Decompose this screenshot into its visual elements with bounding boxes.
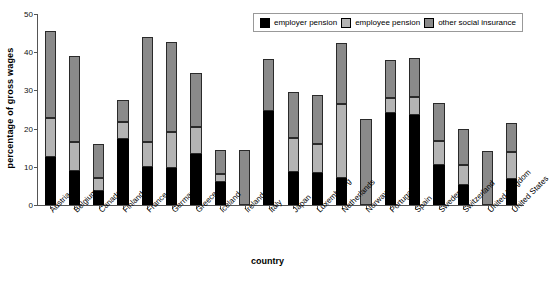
bar-spain [409,14,420,205]
bar-segment-other-social-insurance [458,129,469,165]
bar-segment-other-social-insurance [336,43,347,104]
bar-segment-employer-pension [433,165,444,205]
y-axis-tick-label: 30 [3,86,38,95]
bar-segment-employee-pension [458,165,469,185]
bar-segment-other-social-insurance [69,56,80,143]
y-axis-label: percentage of gross wages [2,0,18,215]
y-axis-tick-label: 40 [3,48,38,57]
bar-luxembourg [312,14,323,205]
bar-segment-employee-pension [433,141,444,165]
bar-segment-employee-pension [45,118,56,157]
y-axis-tick-label: 10 [3,162,38,171]
bar-segment-other-social-insurance [117,100,128,122]
y-axis-tick-mark [34,205,38,206]
bar-portugal [385,14,396,205]
bar-segment-employer-pension [263,111,274,205]
bar-canada [93,14,104,205]
bar-ireland [239,14,250,205]
y-axis-tick-mark [34,52,38,53]
bar-segment-employer-pension [166,168,177,205]
y-axis-tick-mark [34,167,38,168]
y-axis-tick-label: 0 [3,201,38,210]
y-axis-tick-mark [34,90,38,91]
bar-segment-other-social-insurance [190,73,201,127]
y-axis-tick-mark [34,14,38,15]
bar-iceland [215,14,226,205]
bar-segment-employee-pension [336,104,347,178]
bar-segment-employee-pension [288,138,299,172]
legend-swatch-other-social-insurance [424,18,434,28]
bar-segment-other-social-insurance [263,59,274,112]
bar-segment-employee-pension [506,152,517,178]
plot-area: 01020304050 [38,14,524,205]
legend-item: other social insurance [424,18,516,28]
legend-item: employee pension [341,18,420,28]
bar-japan [288,14,299,205]
bar-segment-other-social-insurance [433,103,444,140]
bar-segment-employee-pension [215,174,226,182]
y-axis-tick-mark [34,129,38,130]
legend-label: employer pension [274,18,337,27]
bar-united-kingdom [482,14,493,205]
bar-france [142,14,153,205]
bar-segment-employee-pension [190,127,201,154]
bar-segment-other-social-insurance [288,92,299,137]
y-axis-tick-label: 20 [3,124,38,133]
bar-segment-other-social-insurance [385,60,396,98]
bar-segment-other-social-insurance [93,144,104,178]
bar-segment-employer-pension [45,157,56,206]
legend-label: other social insurance [438,18,516,27]
legend-swatch-employee-pension [341,18,351,28]
legend-swatch-employer-pension [260,18,270,28]
bar-segment-other-social-insurance [166,42,177,132]
bar-segment-employer-pension [142,167,153,205]
bar-finland [117,14,128,205]
bar-segment-other-social-insurance [506,123,517,152]
bar-segment-other-social-insurance [45,31,56,118]
chart-legend: employer pension employee pension other … [253,13,523,32]
bar-segment-employee-pension [312,144,323,173]
bar-greece [190,14,201,205]
bar-segment-other-social-insurance [215,150,226,174]
legend-item: employer pension [260,18,337,28]
y-axis-tick-label: 50 [3,10,38,19]
bar-segment-employee-pension [69,142,80,171]
bar-sweden [433,14,444,205]
bar-switzerland [458,14,469,205]
bar-segment-employee-pension [142,142,153,167]
bar-segment-employee-pension [385,98,396,113]
bar-italy [263,14,274,205]
bar-segment-employee-pension [409,97,420,115]
bar-austria [45,14,56,205]
bar-segment-employee-pension [166,132,177,169]
bar-segment-other-social-insurance [142,37,153,142]
bar-segment-other-social-insurance [409,58,420,97]
bar-segment-employee-pension [117,122,128,139]
x-axis-label: country [0,256,535,266]
bar-segment-other-social-insurance [312,95,323,144]
legend-label: employee pension [355,18,420,27]
bar-belgium [69,14,80,205]
bar-germany [166,14,177,205]
